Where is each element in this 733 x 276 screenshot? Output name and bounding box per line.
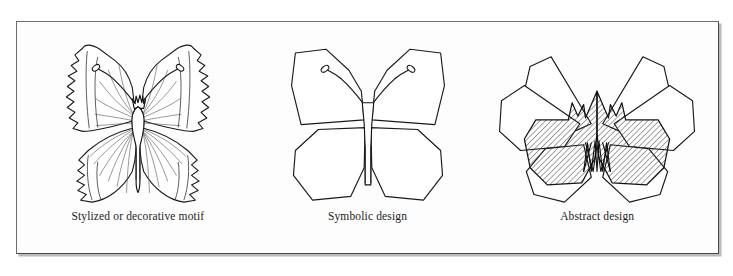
butterfly-symbolic-illustration [260, 32, 476, 204]
panel-symbolic: Symbolic design [253, 22, 483, 253]
butterfly-abstract-illustration [489, 32, 705, 204]
panel-abstract-caption: Abstract design [560, 210, 634, 222]
figure-plate: Stylized or decorative motif [0, 0, 733, 276]
butterfly-stylized-illustration [30, 32, 246, 204]
plate-frame-border: Stylized or decorative motif [16, 21, 719, 254]
panel-row: Stylized or decorative motif [17, 22, 718, 253]
panel-stylized-caption: Stylized or decorative motif [71, 210, 204, 222]
panel-stylized: Stylized or decorative motif [23, 22, 253, 253]
panel-abstract: Abstract design [482, 22, 712, 253]
panel-symbolic-caption: Symbolic design [328, 210, 407, 222]
